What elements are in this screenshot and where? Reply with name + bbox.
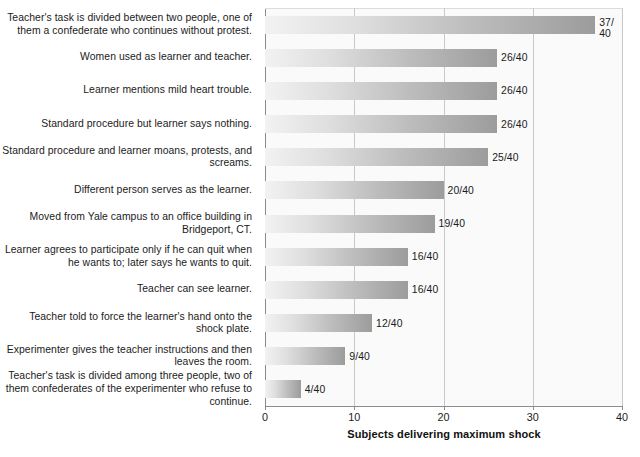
bar-value-label: 9/40 [349, 351, 370, 363]
bar [265, 49, 497, 67]
category-label: Moved from Yale campus to an office buil… [0, 211, 258, 236]
category-label: Learner agrees to participate only if he… [0, 244, 258, 269]
bar [265, 148, 488, 166]
bar [265, 281, 408, 299]
category-label: Teacher's task is divided among three pe… [0, 370, 258, 408]
category-label: Teacher can see learner. [0, 283, 258, 296]
category-label: Teacher's task is divided between two pe… [0, 12, 258, 37]
gridline-30 [533, 8, 534, 406]
x-tick-mark-0 [265, 406, 266, 410]
bar [265, 181, 444, 199]
category-label: Experimenter gives the teacher instructi… [0, 344, 258, 369]
bar [265, 380, 301, 398]
category-label: Women used as learner and teacher. [0, 51, 258, 64]
bar [265, 248, 408, 266]
bar-value-label: 26/40 [501, 119, 528, 131]
x-tick-label-30: 30 [527, 411, 539, 423]
bar-value-label: 16/40 [412, 251, 439, 263]
category-label: Different person serves as the learner. [0, 184, 258, 197]
bar [265, 215, 435, 233]
bar-value-label: 20/40 [448, 185, 475, 197]
category-label: Learner mentions mild heart trouble. [0, 84, 258, 97]
x-tick-mark-40 [622, 406, 623, 410]
x-tick-label-0: 0 [262, 411, 268, 423]
bar [265, 16, 595, 34]
bar-value-label: 12/40 [376, 318, 403, 330]
bar-chart-figure: Teacher's task is divided between two pe… [0, 0, 640, 457]
bar-value-label: 37/ 40 [599, 17, 614, 40]
x-axis-title: Subjects delivering maximum shock [265, 428, 623, 440]
bar-value-label: 25/40 [492, 152, 519, 164]
bar-value-label: 19/40 [439, 218, 466, 230]
x-tick-mark-10 [354, 406, 355, 410]
category-label: Teacher told to force the learner's hand… [0, 311, 258, 336]
bar-value-label: 16/40 [412, 284, 439, 296]
x-tick-mark-20 [444, 406, 445, 410]
x-tick-mark-30 [533, 406, 534, 410]
x-tick-label-40: 40 [616, 411, 628, 423]
bar [265, 82, 497, 100]
bar-value-label: 4/40 [305, 384, 326, 396]
bar-value-label: 26/40 [501, 52, 528, 64]
bar [265, 115, 497, 133]
category-label: Standard procedure and learner moans, pr… [0, 145, 258, 170]
gridline-10 [354, 8, 355, 406]
x-tick-label-10: 10 [348, 411, 360, 423]
category-label: Standard procedure but learner says noth… [0, 118, 258, 131]
bar [265, 347, 345, 365]
bar [265, 314, 372, 332]
plot-frame-right [622, 8, 623, 406]
category-label-column: Teacher's task is divided between two pe… [0, 0, 258, 457]
x-tick-label-20: 20 [437, 411, 449, 423]
bar-value-label: 26/40 [501, 85, 528, 97]
gridline-20 [444, 8, 445, 406]
